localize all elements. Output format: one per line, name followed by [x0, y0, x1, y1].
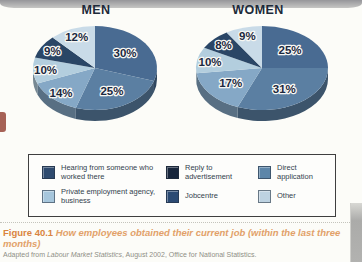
legend-label: Reply to advertisement — [185, 163, 253, 182]
men-pie-chart: 30%25%14%10%9%12% — [25, 18, 175, 136]
pie-slice-label: 14% — [49, 87, 72, 99]
legend-swatch-reply — [166, 166, 179, 179]
pie-slice-label: 25% — [278, 44, 301, 56]
pie-slice-label: 17% — [219, 77, 242, 89]
source-note: Adapted from Labour Market Statistics, A… — [3, 251, 355, 258]
legend-swatch-direct — [258, 166, 271, 179]
legend-swatch-jobcentre — [166, 190, 179, 203]
legend-swatch-other — [258, 190, 271, 203]
pie-slice-label: 31% — [273, 83, 296, 95]
legend-item-private-agency: Private employment agency, business — [42, 187, 166, 206]
legend-item-reply: Reply to advertisement — [166, 163, 258, 182]
men-chart-title: MEN — [51, 3, 141, 17]
pie-slice-label: 25% — [100, 85, 123, 97]
source-publication: Labour Market Statistics — [47, 251, 122, 258]
legend-item-direct: Direct application — [258, 163, 338, 182]
pie-slice-label: 8% — [215, 39, 232, 51]
legend-item-other: Other — [258, 187, 338, 206]
chart-legend: Hearing from someone who worked there Re… — [28, 154, 336, 217]
legend-item-jobcentre: Jobcentre — [166, 187, 258, 206]
legend-label: Jobcentre — [185, 191, 218, 200]
figure-page: MEN WOMEN 30%25%14%10%9%12% 25%31%17%10%… — [0, 0, 362, 262]
scan-edge-strip — [350, 203, 362, 262]
caption-divider — [0, 222, 362, 223]
pie-slice-label: 10% — [199, 56, 222, 68]
legend-swatch-private-agency — [42, 190, 55, 203]
pie-slice-label: 10% — [34, 64, 57, 76]
legend-label: Hearing from someone who worked there — [61, 163, 163, 182]
scan-mark — [0, 112, 6, 132]
figure-number: Figure 40.1 — [3, 227, 53, 238]
figure-caption: Figure 40.1 How employees obtained their… — [3, 227, 355, 249]
legend-label: Direct application — [277, 163, 333, 182]
legend-swatch-hearing — [42, 166, 55, 179]
source-prefix: Adapted from — [3, 251, 47, 258]
pie-slice-label: 9% — [44, 45, 61, 57]
women-chart-title: WOMEN — [213, 3, 303, 17]
pie-slice-label: 12% — [65, 31, 88, 43]
figure-title: How employees obtained their current job… — [3, 227, 340, 249]
legend-label: Other — [277, 191, 296, 200]
women-pie-chart: 25%31%17%10%8%9% — [192, 18, 342, 136]
legend-label: Private employment agency, business — [61, 187, 159, 206]
source-suffix: , August 2002, Office for National Stati… — [122, 251, 257, 258]
pie-slice-label: 30% — [114, 47, 137, 59]
legend-item-hearing: Hearing from someone who worked there — [42, 163, 166, 182]
pie-slice-label: 9% — [239, 30, 256, 42]
